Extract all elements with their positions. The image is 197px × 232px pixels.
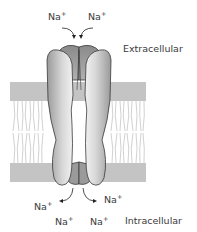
arrow-out-left-head: [59, 199, 63, 203]
arrow-in-left-head: [72, 35, 76, 39]
arrow-in-right: [81, 28, 93, 36]
ion-label-intracellular-2: Na+: [104, 193, 122, 205]
ion-label-intracellular-1: Na+: [34, 200, 52, 212]
arrow-out-left: [62, 188, 73, 201]
diagram-canvas: [0, 0, 197, 232]
ion-label-intracellular-3: Na+: [55, 215, 73, 227]
arrow-out-right-head: [93, 199, 97, 203]
region-label-extracellular: Extracellular: [123, 43, 183, 54]
ion-label-extracellular-2: Na+: [88, 10, 106, 22]
membrane-top-heads: [10, 82, 146, 101]
arrow-in-left: [62, 28, 74, 36]
ion-label-intracellular-4: Na+: [90, 215, 108, 227]
arrow-in-right-head: [79, 35, 83, 39]
lipid-tails: [13, 101, 144, 163]
region-label-intracellular: Intracellular: [125, 215, 182, 226]
arrow-out-right: [83, 188, 94, 201]
ion-label-extracellular-1: Na+: [48, 10, 66, 22]
ion-channel-protein: [47, 45, 111, 185]
